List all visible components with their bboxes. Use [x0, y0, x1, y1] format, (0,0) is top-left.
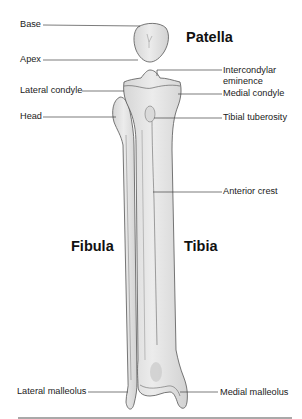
fibula-bone	[113, 97, 137, 409]
patella-bone	[134, 23, 169, 62]
fibula-shape	[113, 97, 137, 409]
patella-shape	[134, 23, 169, 62]
label-medial-malleolus: Medial malleolus	[220, 387, 288, 398]
leg-bones-diagram	[0, 0, 302, 419]
label-eminence: eminence	[223, 76, 263, 87]
tibial-tuberosity-mark	[145, 106, 155, 122]
tibia-distal-shade	[150, 362, 162, 382]
label-base: Base	[20, 19, 41, 30]
label-anterior-crest: Anterior crest	[223, 186, 278, 197]
label-head: Head	[20, 111, 42, 122]
label-intercondylar: Intercondylar	[223, 65, 276, 76]
title-fibula: Fibula	[71, 238, 114, 254]
title-patella: Patella	[186, 29, 233, 45]
label-lateral-malleolus: Lateral malleolus	[17, 386, 86, 397]
label-lateral-condyle: Lateral condyle	[20, 85, 82, 96]
leader-intercondylar-eminence	[157, 70, 222, 76]
label-tibial-tuberosity: Tibial tuberosity	[223, 112, 287, 123]
label-apex: Apex	[20, 54, 41, 65]
label-medial-condyle: Medial condyle	[223, 88, 284, 99]
title-tibia: Tibia	[184, 238, 218, 254]
leader-base	[43, 25, 140, 26]
